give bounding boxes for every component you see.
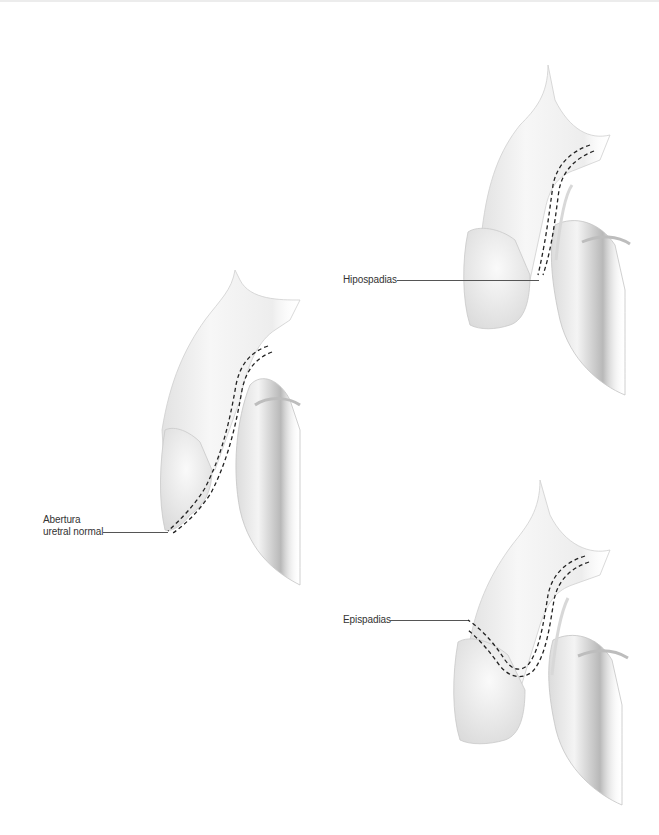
leader-line-hypospadias [397, 280, 539, 281]
label-normal-line2: uretral normal [43, 526, 103, 538]
label-hypospadias: Hipospadias [343, 274, 397, 286]
label-epispadias: Epispadias [343, 614, 391, 626]
leader-line-epispadias [390, 620, 468, 621]
label-normal-line1: Abertura [43, 514, 81, 526]
figure-hypospadias [464, 65, 630, 395]
figure-epispadias [454, 480, 628, 805]
figure-normal [160, 270, 300, 585]
diagram-canvas [0, 0, 659, 835]
leader-line-normal [103, 532, 168, 533]
